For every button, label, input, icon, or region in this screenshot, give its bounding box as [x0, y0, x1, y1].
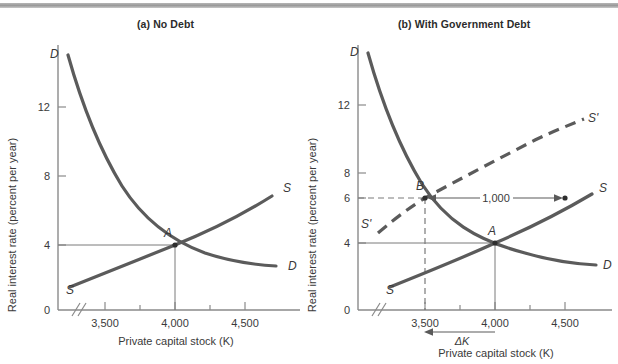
panel-b-shifted-supply-label-left: S' — [361, 217, 372, 231]
panel-b-xtick-label-3500: 3,500 — [411, 317, 439, 329]
panel-b-x-axis-title: Private capital stock (K) — [438, 347, 554, 359]
panel-b-demand-label-right: D — [603, 258, 612, 272]
figure-container: (a) No Debt (b) With Government Debt 12 … — [0, 0, 618, 364]
panel-b-demand-label-top: D — [350, 45, 359, 59]
panel-b-ytick-label-12: 12 — [338, 99, 350, 111]
panel-b-shifted-supply-label-right: S' — [588, 111, 599, 125]
panel-b-equilibrium-b-label: B — [416, 179, 424, 193]
panel-b-ytick-label-0: 0 — [344, 304, 350, 316]
panel-b-ytick-label-6: 6 — [344, 192, 350, 204]
panel-b-ytick-label-4: 4 — [344, 237, 350, 249]
panel-b-xtick-label-4000: 4,000 — [481, 317, 509, 329]
panel-b-gap-annotation: 1,000 — [482, 192, 510, 204]
panel-b-xtick-label-4500: 4,500 — [551, 317, 579, 329]
panel-b-supply-label-left: S — [386, 283, 394, 297]
panel-b-gap-arrow-right-head — [554, 194, 563, 202]
panel-b-reference-dot-4500 — [562, 195, 567, 200]
panel-b-equilibrium-a-label: A — [487, 224, 496, 238]
panel-b-delta-k-annotation: ΔK — [454, 335, 470, 347]
panel-b-y-axis-title: Real interest rate (percent per year) — [306, 138, 318, 312]
panel-b-equilibrium-a-dot — [492, 240, 497, 245]
panel-b-supply-label-right: S — [599, 181, 607, 195]
panel-b-plot: 12 8 6 4 0 3,500 4,000 4,500 Private cap… — [0, 0, 618, 364]
panel-b-delta-k-arrow-head — [424, 328, 433, 336]
panel-b-demand-curve — [368, 53, 596, 265]
panel-b-equilibrium-b-dot — [422, 195, 427, 200]
panel-b-ytick-label-8: 8 — [344, 167, 350, 179]
